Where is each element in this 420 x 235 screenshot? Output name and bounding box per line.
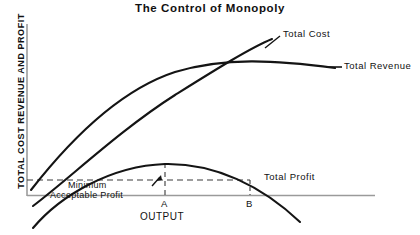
minimum-profit-arrow-head <box>157 175 163 181</box>
total-profit-label: Total Profit <box>264 171 315 182</box>
x-axis-label: OUTPUT <box>140 211 184 222</box>
minimum-acceptable-profit-line2: Acceptable Profit <box>50 190 123 201</box>
x-tick-label-a: A <box>161 198 168 209</box>
chart-container: The Control of Monopoly TOTAL COST REVEN… <box>0 0 420 235</box>
total-cost-label: Total Cost <box>283 28 330 39</box>
total-revenue-label: Total Revenue <box>344 60 411 71</box>
x-tick-label-b: B <box>246 198 253 209</box>
